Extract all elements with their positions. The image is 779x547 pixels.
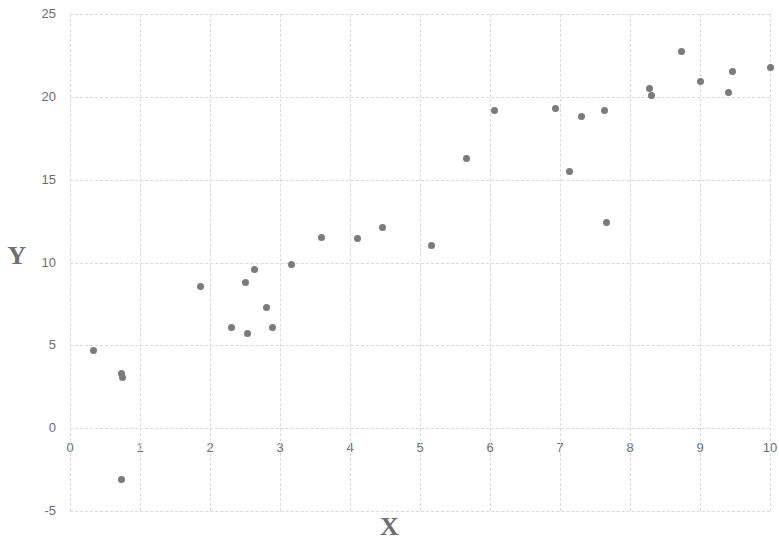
data-point <box>251 266 258 273</box>
gridline-vertical <box>770 14 771 511</box>
data-point <box>244 330 251 337</box>
data-point <box>729 68 736 75</box>
data-point <box>603 219 610 226</box>
data-point <box>428 242 435 249</box>
data-point <box>197 283 204 290</box>
data-point <box>269 324 276 331</box>
data-point <box>119 374 126 381</box>
data-point <box>578 113 585 120</box>
gridline-horizontal <box>70 428 770 429</box>
y-tick-label: 25 <box>16 6 56 21</box>
y-tick-label: 10 <box>16 255 56 270</box>
data-point <box>354 235 361 242</box>
data-point <box>263 304 270 311</box>
data-point <box>242 279 249 286</box>
data-point <box>725 89 732 96</box>
plot-area <box>70 14 770 511</box>
scatter-chart-figure: Y X -50510152025 012345678910 <box>0 0 779 547</box>
y-tick-label: 15 <box>16 172 56 187</box>
gridline-horizontal <box>70 345 770 346</box>
data-point <box>90 347 97 354</box>
data-point <box>767 64 774 71</box>
y-tick-label: 5 <box>16 337 56 352</box>
data-point <box>288 261 295 268</box>
gridline-horizontal <box>70 180 770 181</box>
y-tick-label: 20 <box>16 89 56 104</box>
data-point <box>601 107 608 114</box>
x-axis-title: X <box>0 512 779 542</box>
gridline-horizontal <box>70 14 770 15</box>
data-point <box>228 324 235 331</box>
y-tick-label: -5 <box>16 503 56 518</box>
data-point <box>491 107 498 114</box>
data-point <box>552 105 559 112</box>
data-point <box>463 155 470 162</box>
data-point <box>566 168 573 175</box>
data-point <box>118 476 125 483</box>
gridline-horizontal <box>70 97 770 98</box>
data-point <box>648 92 655 99</box>
data-point <box>697 78 704 85</box>
data-point <box>318 234 325 241</box>
data-point <box>379 224 386 231</box>
data-point <box>646 85 653 92</box>
y-tick-label: 0 <box>16 420 56 435</box>
gridline-horizontal <box>70 511 770 512</box>
gridline-horizontal <box>70 263 770 264</box>
data-point <box>678 48 685 55</box>
